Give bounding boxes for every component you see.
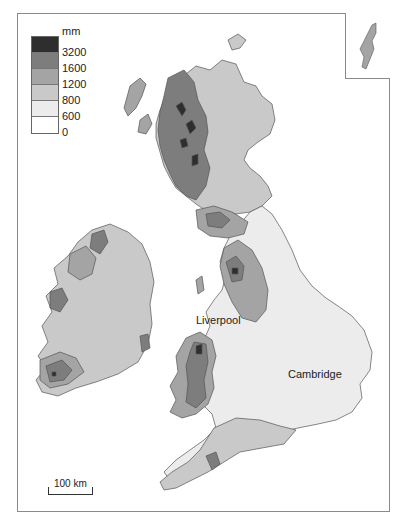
legend-swatch-5: [32, 101, 58, 117]
legend-label: 3200: [62, 46, 86, 58]
legend-swatch-1: [32, 37, 58, 53]
legend-label: 600: [62, 110, 80, 122]
shetland-inset: [346, 13, 391, 79]
region-hebrides: [124, 78, 146, 116]
region-wicklow: [140, 334, 150, 352]
legend-swatch-2: [32, 53, 58, 69]
region-snowdon: [196, 344, 202, 354]
region-isle-of-man: [196, 276, 204, 294]
legend-swatch-4: [32, 85, 58, 101]
place-label-cambridge: Cambridge: [288, 368, 342, 380]
rainfall-map: [0, 0, 403, 531]
region-lake-district-high: [232, 268, 238, 274]
legend-label: 1600: [62, 62, 86, 74]
legend-label: 1200: [62, 78, 86, 90]
inset-map-frame: [345, 13, 390, 79]
region-kerry-peak: [52, 372, 56, 376]
scale-bar-label: 100 km: [54, 478, 87, 489]
region-orkney: [228, 34, 246, 50]
legend-unit: mm: [62, 25, 80, 37]
legend-label: 0: [62, 126, 68, 138]
legend-swatch-6: [32, 117, 58, 133]
legend-swatch-3: [32, 69, 58, 85]
legend-swatches: [31, 36, 59, 134]
region-shetland: [360, 23, 376, 69]
region-hebrides-south: [138, 114, 152, 134]
place-label-liverpool: Liverpool: [196, 314, 241, 326]
legend-label: 800: [62, 94, 80, 106]
region-southwest: [160, 418, 296, 490]
